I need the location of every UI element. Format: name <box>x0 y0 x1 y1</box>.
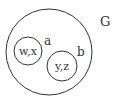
set-diagram: G w,x a y,z b <box>0 0 115 101</box>
subset-label-b: b <box>77 45 85 59</box>
outer-set-label-g: G <box>100 14 110 29</box>
subset-elements-a: w,x <box>19 45 38 58</box>
subset-elements-b: y,z <box>54 60 69 73</box>
subset-label-a: a <box>44 34 51 48</box>
